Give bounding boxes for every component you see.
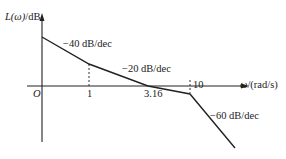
x-axis-label-unit: /(rad/s): [247, 79, 277, 90]
tick-label-1: 1: [87, 89, 92, 100]
magnitude-asymptote-line: [42, 37, 235, 148]
y-axis-label-unit: /dB: [25, 11, 40, 22]
slope-label-20: −20 dB/dec: [122, 64, 171, 75]
y-axis: [40, 13, 45, 142]
origin-label: O: [33, 89, 41, 100]
y-axis-label-fn: L(ω): [5, 11, 25, 22]
y-axis-label: L(ω)/dB: [5, 12, 40, 23]
x-axis-label: ω/(rad/s): [240, 80, 278, 91]
x-axis: [27, 84, 249, 89]
slope-label-40: −40 dB/dec: [63, 39, 112, 50]
tick-label-10: 10: [193, 80, 204, 91]
slope-label-60: −60 dB/dec: [210, 111, 259, 122]
tick-label-3-16: 3.16: [144, 89, 162, 100]
